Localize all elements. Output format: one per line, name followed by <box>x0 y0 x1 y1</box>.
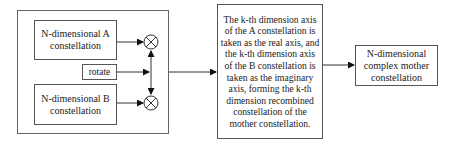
multiplier-a-icon <box>144 35 158 49</box>
multiplier-b-icon <box>144 96 158 110</box>
connector-wires <box>0 0 456 145</box>
